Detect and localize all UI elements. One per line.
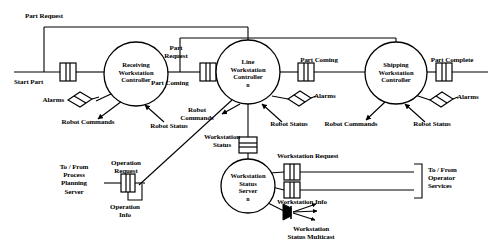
alarms-receiving-icon xyxy=(68,92,99,107)
label-robot-status-shipping: Robot Status xyxy=(413,120,451,128)
part-coming-port xyxy=(298,63,314,81)
part-request-port xyxy=(200,63,216,81)
label-alarms-shipping: Alarms xyxy=(457,93,479,101)
label-operation-info: Operation Info xyxy=(110,203,140,219)
label-alarms-receiving: Alarms xyxy=(42,96,64,104)
shipping-robot-commands-arrow xyxy=(366,102,385,120)
label-part-coming-right: Part Coming xyxy=(300,56,338,64)
label-start-part: Start Part xyxy=(14,78,43,86)
workstation-status-multicast-icon xyxy=(283,204,317,220)
node-multiplicity-line: n xyxy=(246,82,249,88)
operation-request-port xyxy=(121,174,135,192)
line-robot-commands-arrow xyxy=(222,104,240,114)
node-receiving-workstation-controller[interactable] xyxy=(104,42,168,106)
label-part-coming-left: Part Coming xyxy=(151,79,189,87)
receiving-robot-status-arrow xyxy=(145,105,164,122)
workstation-request-port xyxy=(284,164,300,180)
label-to-from-operator-services: To / From Operator Services xyxy=(428,166,457,191)
block-diagram: Receiving Workstation Controller Line Wo… xyxy=(0,0,498,249)
part-complete-port xyxy=(436,63,452,81)
operator-services-bracket xyxy=(414,164,422,198)
node-multiplicity-wss: n xyxy=(246,196,249,202)
label-robot-commands-line: Robot Commands xyxy=(180,106,213,122)
label-to-from-process-planning-server: To / From Process Planning Server xyxy=(60,163,89,196)
label-part-complete: Part Complete xyxy=(431,56,473,64)
alarms-shipping-icon xyxy=(430,92,458,107)
workstation-info-port xyxy=(284,182,300,198)
node-line-workstation-controller[interactable] xyxy=(216,40,280,104)
alarms-line-icon xyxy=(288,91,316,106)
label-part-request-top: Part Request xyxy=(25,12,63,20)
label-workstation-info: Workstation Info xyxy=(277,198,327,206)
node-workstation-status-server[interactable] xyxy=(221,159,275,213)
receiving-robot-commands-arrow xyxy=(98,101,122,119)
label-robot-commands-shipping: Robot Commands xyxy=(325,120,378,128)
label-robot-status-line: Robot Status xyxy=(270,120,308,128)
label-operation-request: Operation Request xyxy=(111,159,141,175)
workstation-status-port xyxy=(239,137,257,153)
label-workstation-status-multicast: Workstation Status Multicast xyxy=(287,225,334,241)
label-robot-status-receiving: Robot Status xyxy=(150,122,188,130)
label-alarms-line: Alarms xyxy=(314,92,336,100)
node-shipping-workstation-controller[interactable] xyxy=(365,42,427,104)
start-part-port xyxy=(60,63,76,81)
label-workstation-request: Workstation Request xyxy=(277,152,338,160)
line-alarms-line xyxy=(272,96,288,99)
label-workstation-status: Workstation Status xyxy=(204,133,240,149)
label-part-request-mid: Part Request xyxy=(164,44,187,60)
label-robot-commands-receiving: Robot Commands xyxy=(62,118,115,126)
